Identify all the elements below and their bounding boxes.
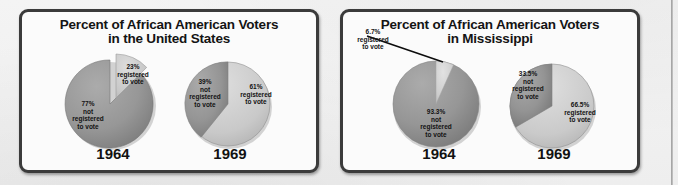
pie-label-ms-1969-not-registered: 33.5% not registered to vote — [500, 70, 556, 100]
slice-line3: registered — [420, 123, 451, 130]
slice-line2: not — [83, 108, 93, 115]
slice-line3: registered — [72, 115, 103, 122]
slice-line4: to vote — [517, 93, 538, 100]
chart-panel-mississippi: Percent of African American Voters in Mi… — [340, 9, 640, 173]
chart-panel-united-states: Percent of African American Voters in th… — [19, 9, 319, 173]
panel-title-line2: in the United States — [22, 32, 316, 46]
panel-title-united-states: Percent of African American Voters in th… — [22, 18, 316, 46]
slice-value: 33.5% — [519, 70, 537, 77]
pie-year-us-1969: 1969 — [185, 145, 275, 162]
slice-line4: to vote — [425, 131, 446, 138]
pie-label-us-1969-not-registered: 39% not registered to vote — [178, 78, 232, 108]
slice-line2: registered — [357, 36, 388, 43]
pie-chart-ms-1964: 6.7% registered to vote 93.3% not regist… — [387, 54, 491, 154]
panel-title-line1: Percent of African American Voters — [60, 17, 279, 32]
slice-line3: to vote — [569, 116, 590, 123]
slice-line3: to vote — [245, 98, 266, 105]
slice-value: 61% — [249, 83, 262, 90]
pie-label-us-1964-not-registered: 77% not registered to vote — [60, 100, 116, 130]
slice-value: 39% — [198, 78, 211, 85]
slice-line3: registered — [512, 85, 543, 92]
slice-line3: to vote — [122, 78, 143, 85]
slice-value: 6.7% — [366, 28, 381, 35]
slice-line2: not — [523, 78, 533, 85]
pie-label-ms-1964-not-registered: 93.3% not registered to vote — [406, 108, 466, 138]
slice-line2: not — [431, 116, 441, 123]
pie-label-ms-1964-registered: 6.7% registered to vote — [343, 28, 403, 51]
pie-chart-ms-1969: 33.5% not registered to vote 66.5% regis… — [504, 58, 604, 154]
slice-line2: registered — [117, 71, 148, 78]
pie-label-us-1964-registered: 23% registered to vote — [106, 63, 160, 86]
slice-line4: to vote — [77, 123, 98, 130]
slice-line2: not — [200, 86, 210, 93]
slice-value: 93.3% — [427, 108, 445, 115]
slice-line2: registered — [240, 91, 271, 98]
slice-line4: to vote — [194, 101, 215, 108]
slice-line3: to vote — [362, 43, 383, 50]
slice-line3: registered — [189, 93, 220, 100]
slice-value: 23% — [126, 63, 139, 70]
slice-value: 77% — [81, 100, 94, 107]
pie-label-ms-1969-registered: 66.5% registered to vote — [552, 101, 608, 124]
column-divider-rule — [671, 0, 673, 185]
slice-value: 66.5% — [571, 101, 589, 108]
pie-year-ms-1969: 1969 — [509, 145, 599, 162]
pie-chart-us-1964: 23% registered to vote 77% not registere… — [62, 52, 166, 152]
pie-label-us-1969-registered: 61% registered to vote — [230, 83, 282, 106]
pie-chart-us-1969: 39% not registered to vote 61% registere… — [180, 56, 280, 152]
pie-year-ms-1964: 1964 — [394, 145, 484, 162]
slice-line2: registered — [564, 109, 595, 116]
pie-year-us-1964: 1964 — [68, 145, 158, 162]
